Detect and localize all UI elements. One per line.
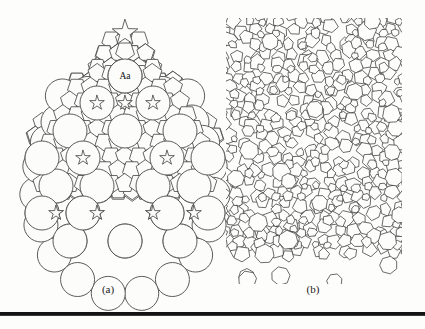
panel-a-svg: Aa bbox=[22, 10, 222, 295]
panel-b-random-tiling bbox=[226, 18, 402, 284]
caption-panel-a: (a) bbox=[78, 283, 138, 295]
figure-container: Aa (a) (b) bbox=[0, 0, 425, 329]
caption-panel-b: (b) bbox=[283, 283, 343, 295]
label-aa: Aa bbox=[119, 71, 131, 81]
footer-horizontal-rule bbox=[0, 312, 425, 316]
panel-b-svg bbox=[226, 18, 402, 284]
panel-a-pentagonal-cluster: Aa bbox=[22, 10, 222, 295]
